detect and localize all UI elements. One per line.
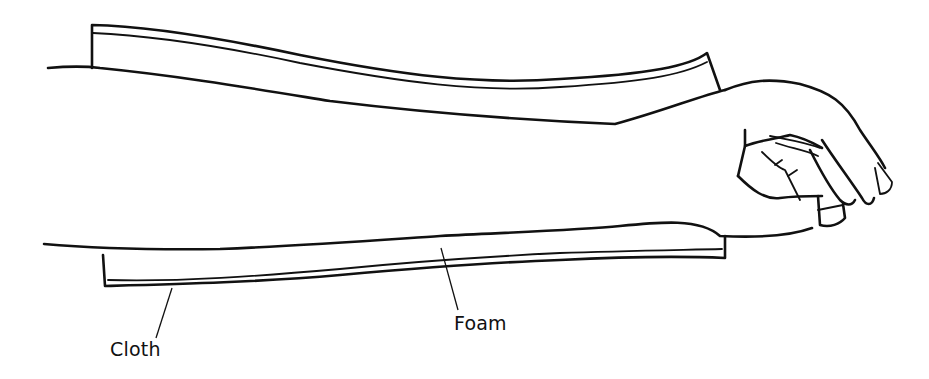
cloth-leader-line [156, 288, 172, 338]
foam-leader-line [441, 248, 458, 310]
arm-outline [44, 67, 892, 250]
lower-splint [103, 236, 725, 286]
foam-label: Foam [454, 312, 507, 334]
upper-splint [92, 25, 720, 90]
cloth-label: Cloth [110, 338, 161, 360]
